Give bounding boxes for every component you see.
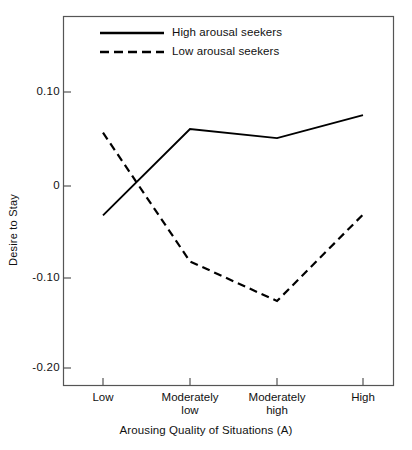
series-line-high-arousal-seekers xyxy=(103,115,363,215)
legend-label-low-arousal-seekers: Low arousal seekers xyxy=(172,45,279,57)
x-tick-label-moderately-high: Moderately high xyxy=(229,391,325,417)
x-axis-title: Arousing Quality of Situations (A) xyxy=(0,424,412,436)
x-tick-label-moderately-high-line1: Moderately xyxy=(229,391,325,404)
plot-svg xyxy=(0,0,412,450)
x-tick-label-moderately-low-line2: low xyxy=(142,404,238,417)
chart-figure: Desire to Stay 0.10 0 -0.10 -0.20 xyxy=(0,0,412,450)
x-tick-label-low: Low xyxy=(55,391,151,404)
y-tick-marks xyxy=(64,92,72,368)
x-tick-label-moderately-low-line1: Moderately xyxy=(142,391,238,404)
x-tick-marks xyxy=(103,378,363,386)
x-tick-label-moderately-high-line2: high xyxy=(229,404,325,417)
series-line-low-arousal-seekers xyxy=(103,133,363,301)
plot-frame xyxy=(64,17,394,386)
x-tick-label-high-line1: High xyxy=(315,391,411,404)
x-tick-label-low-line1: Low xyxy=(55,391,151,404)
x-tick-label-high: High xyxy=(315,391,411,404)
legend-label-high-arousal-seekers: High arousal seekers xyxy=(172,26,282,38)
x-tick-label-moderately-low: Moderately low xyxy=(142,391,238,417)
